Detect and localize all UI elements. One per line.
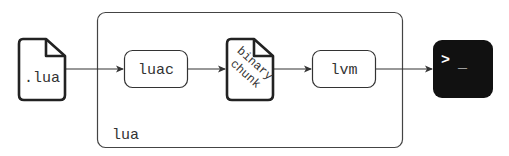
lua-container-label: lua (112, 127, 139, 144)
luac-node: luac (125, 51, 188, 88)
terminal-cursor: _ (457, 55, 468, 72)
terminal-prompt: > (441, 52, 450, 69)
lvm-label: lvm (330, 62, 357, 79)
source-file-icon: .lua (19, 39, 65, 100)
source-file-label: .lua (24, 70, 60, 87)
terminal-icon: > _ (433, 40, 493, 98)
lua-pipeline-diagram: lua .lua luac binary chunk lvm > _ (0, 0, 509, 156)
luac-label: luac (138, 62, 174, 79)
binary-chunk-file-icon: binary chunk (225, 39, 276, 100)
lvm-node: lvm (313, 51, 376, 88)
